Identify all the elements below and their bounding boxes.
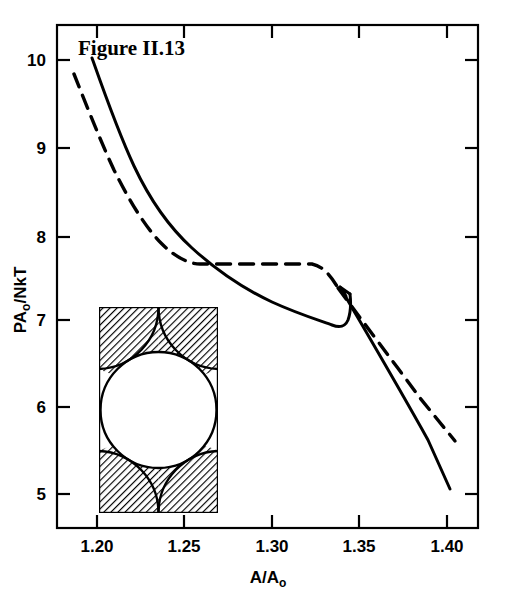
x-tick-label-3: 1.35 [342, 537, 375, 556]
y-axis-title: PAo/NkT [11, 266, 33, 333]
x-tick-labels: 1.20 1.25 1.30 1.35 1.40 [80, 537, 463, 556]
y-axis-ticks-right [465, 60, 478, 494]
solid-branch-right [340, 287, 450, 489]
y-tick-label-8: 8 [37, 228, 46, 247]
x-axis-title-subscript: o [279, 576, 286, 590]
y-tick-label-7: 7 [37, 311, 46, 330]
y-tick-label-9: 9 [37, 139, 46, 158]
y-tick-label-10: 10 [27, 51, 46, 70]
inset-central-circle [101, 352, 217, 468]
x-axis-ticks [97, 515, 447, 528]
y-tick-label-5: 5 [37, 485, 46, 504]
inset-unit-cell [99, 307, 218, 513]
x-tick-label-1: 1.25 [167, 537, 200, 556]
svg-text:A/Ao: A/Ao [250, 568, 287, 590]
x-tick-label-0: 1.20 [80, 537, 113, 556]
y-axis-title-main: PA [11, 311, 30, 333]
y-axis-title-tail: /NkT [11, 266, 30, 303]
y-axis-ticks [57, 60, 70, 494]
figure-title: Figure II.13 [78, 36, 185, 60]
figure-container: 1.20 1.25 1.30 1.35 1.40 10 9 8 7 6 5 PA… [0, 0, 506, 604]
x-axis-title-main: A/A [250, 568, 279, 587]
svg-text:PAo/NkT: PAo/NkT [11, 266, 33, 333]
dashed-isotherm-curve [74, 74, 338, 288]
x-axis-title: A/Ao [250, 568, 287, 590]
figure-svg: 1.20 1.25 1.30 1.35 1.40 10 9 8 7 6 5 PA… [0, 0, 506, 604]
x-tick-label-4: 1.40 [430, 537, 463, 556]
solid-isotherm-curve [92, 58, 351, 327]
y-tick-label-6: 6 [37, 398, 46, 417]
x-tick-label-2: 1.30 [255, 537, 288, 556]
y-axis-title-subscript: o [19, 304, 33, 311]
